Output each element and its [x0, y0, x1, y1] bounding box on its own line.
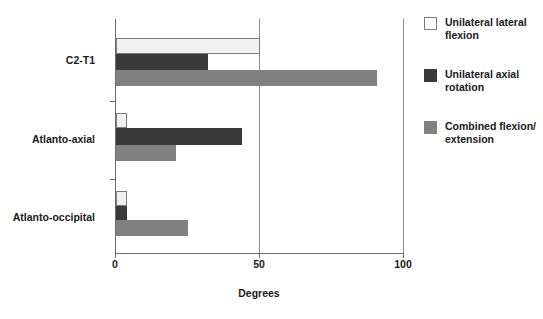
bar-atlanto-axial-unilateral-lateral-flexion — [116, 113, 127, 128]
bar-chart: 0 50 100 C2-T1 Atlanto-axial Atlanto-occ… — [0, 0, 543, 319]
category-label-atlanto-occipital: Atlanto-occipital — [13, 211, 95, 223]
x-tick-label-0: 0 — [112, 258, 118, 270]
legend-item-unilateral-axial-rotation[interactable]: Unilateral axial rotation — [424, 68, 536, 102]
x-tick-label-50: 50 — [253, 258, 265, 270]
bar-c2t1-unilateral-axial-rotation — [116, 54, 208, 70]
gridline-50 — [259, 19, 260, 253]
bar-atlanto-axial-combined-flexion-extension — [116, 145, 176, 161]
bar-atlanto-axial-unilateral-axial-rotation — [116, 128, 242, 145]
legend-label-series1-line2: rotation — [445, 81, 536, 94]
legend: Unilateral lateral flexion Unilateral ax… — [424, 16, 536, 172]
bar-atlanto-occipital-combined-flexion-extension — [116, 220, 188, 236]
legend-label-series1-line1: Unilateral axial — [445, 68, 536, 81]
legend-swatch-icon-series0 — [424, 17, 437, 30]
category-label-atlanto-axial: Atlanto-axial — [32, 133, 95, 145]
legend-item-combined-flexion-extension[interactable]: Combined flexion/ extension — [424, 120, 536, 154]
y-tick-separator-1 — [110, 101, 116, 102]
legend-label-series2-line2: extension — [445, 133, 536, 146]
y-tick-separator-2 — [110, 179, 116, 180]
x-tick-label-100: 100 — [394, 258, 412, 270]
legend-swatch-icon-series2 — [424, 121, 437, 134]
legend-label-series2-line1: Combined flexion/ — [445, 120, 536, 133]
legend-label-series0-line2: flexion — [445, 29, 536, 42]
legend-item-unilateral-lateral-flexion[interactable]: Unilateral lateral flexion — [424, 16, 536, 50]
bar-atlanto-occipital-unilateral-axial-rotation — [116, 206, 127, 220]
category-label-c2-t1: C2-T1 — [66, 54, 95, 66]
legend-label-series0-line1: Unilateral lateral — [445, 16, 536, 29]
legend-swatch-icon-series1 — [424, 69, 437, 82]
x-axis-title: Degrees — [115, 287, 403, 299]
bar-c2t1-unilateral-lateral-flexion — [116, 38, 260, 54]
bar-c2t1-combined-flexion-extension — [116, 70, 377, 86]
gridline-100 — [403, 19, 404, 253]
bar-atlanto-occipital-unilateral-lateral-flexion — [116, 191, 127, 206]
